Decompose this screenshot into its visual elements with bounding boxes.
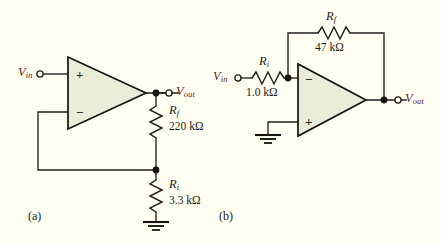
opamp-a-plus-sign: + [76,67,83,82]
ground-a-symbol [143,222,169,230]
resistor-rf-b-symbol [318,27,350,39]
circuit-a: + − [37,57,178,230]
vout-a-label: Vout [176,85,195,99]
opamp-a-feedback-wire [38,112,156,170]
opamp-b-plus-sign: + [305,114,312,129]
output-node-b [381,97,388,104]
opamp-b-minus-sign: − [305,72,312,87]
resistor-rf-a-name: Rf [169,104,179,118]
caption-a: (a) [28,210,41,223]
vin-b-terminal[interactable] [235,75,241,81]
caption-b: (b) [219,210,233,223]
opamp-b-noninverting-ground-wire [268,122,298,135]
vin-b-label: Vin [213,70,228,84]
rf-b-right-lead [350,33,384,100]
op-amp-figure: + − [0,0,441,243]
resistor-ri-b-symbol [252,72,284,84]
resistor-ri-b-value: 1.0 kΩ [246,86,278,98]
opamp-a-minus-sign: − [76,105,83,120]
resistor-ri-a-symbol [150,180,162,212]
vin-a-label: Vin [18,66,33,80]
vout-b-terminal[interactable] [395,97,401,103]
resistor-rf-a-value: 220 kΩ [169,120,203,132]
resistor-ri-a-value: 3.3 kΩ [169,194,201,206]
vout-b-label: Vout [405,92,424,106]
circuit-schematic-canvas: + − [0,0,441,243]
resistor-ri-b-name: Ri [259,55,269,69]
vout-a-terminal[interactable] [166,90,172,96]
resistor-rf-b-name: Rf [326,10,336,24]
ground-b-symbol [255,135,281,143]
vin-a-terminal[interactable] [37,71,43,77]
resistor-ri-a-name: Ri [169,178,179,192]
resistor-rf-a-symbol [150,106,162,138]
resistor-rf-b-value: 47 kΩ [315,41,344,53]
